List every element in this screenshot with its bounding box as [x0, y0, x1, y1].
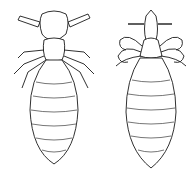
louse-right — [116, 10, 186, 168]
louse-left — [14, 11, 94, 164]
louse-illustration — [0, 0, 195, 180]
